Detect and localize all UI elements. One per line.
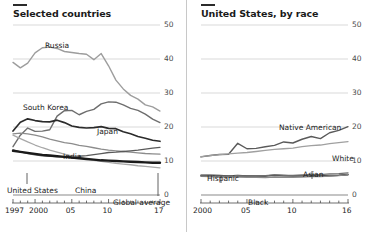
series-label-native-american: Native American	[279, 123, 341, 132]
x-axis-label-05: 05	[66, 206, 76, 215]
panel-united-states-by-race: United States, by race Native AmericanWh…	[188, 0, 375, 232]
y-axis-tick-50: 50	[164, 20, 174, 29]
series-label-russia: Russia	[45, 41, 69, 50]
y-axis-tick-30: 30	[352, 88, 362, 97]
y-axis-tick-40: 40	[352, 54, 362, 63]
x-axis-label-17: 17	[154, 206, 164, 215]
y-axis-tick-10: 10	[352, 156, 362, 165]
series-line-russia	[13, 47, 160, 111]
series-line-japan	[13, 119, 160, 141]
x-axis-label-10: 10	[287, 206, 297, 215]
plot-area-right	[188, 0, 375, 232]
series-label-south-korea: South Korea	[23, 103, 68, 112]
y-axis-tick-40: 40	[164, 54, 174, 63]
y-axis-tick-10: 10	[164, 156, 174, 165]
panel-selected-countries: Selected countries RussiaSouth KoreaJapa…	[0, 0, 187, 232]
series-label-india: India	[63, 152, 81, 161]
series-line-white	[201, 142, 348, 157]
x-axis-label-10: 10	[103, 206, 113, 215]
x-axis-label-1997: 1997	[5, 206, 24, 215]
series-label-white: White	[332, 154, 354, 163]
x-axis-label-05: 05	[241, 206, 251, 215]
series-label-hispanic: Hispanic	[207, 174, 239, 183]
y-axis-tick-0: 0	[164, 190, 169, 199]
series-label-asian: Asian	[303, 170, 323, 179]
y-axis-tick-0: 0	[352, 190, 357, 199]
series-line-united-states	[13, 147, 160, 156]
x-axis-label-16: 16	[342, 206, 352, 215]
y-axis-tick-20: 20	[164, 122, 174, 131]
series-label-black: Black	[248, 198, 268, 207]
series-label-united-states: United States	[7, 186, 58, 195]
y-axis-tick-20: 20	[352, 122, 362, 131]
series-label-china: China	[75, 186, 96, 195]
chart-svg-right	[188, 0, 375, 232]
y-axis-tick-50: 50	[352, 20, 362, 29]
x-axis-label-2000: 2000	[29, 206, 48, 215]
x-axis-label-2000: 2000	[193, 206, 212, 215]
y-axis-tick-30: 30	[164, 88, 174, 97]
chart-page: Selected countries RussiaSouth KoreaJapa…	[0, 0, 375, 232]
series-label-japan: Japan	[97, 127, 118, 136]
